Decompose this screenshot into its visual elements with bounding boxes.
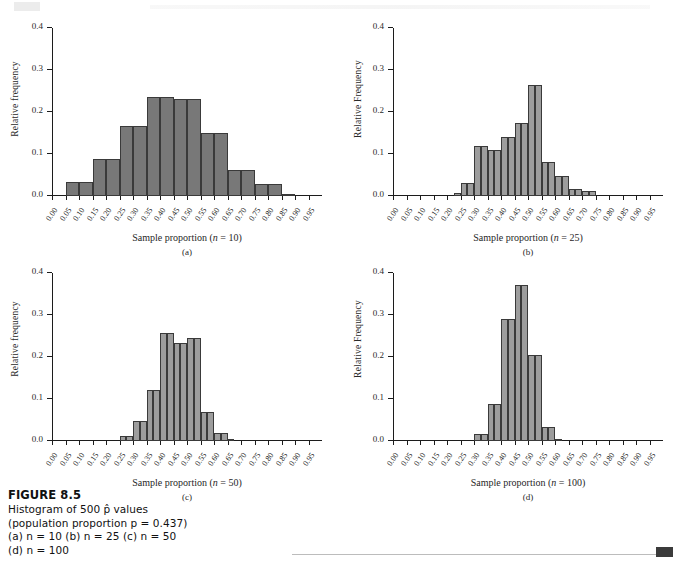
x-axis-tick-label: 0.70 (574, 451, 589, 468)
x-axis-tick: 0.00 (52, 441, 53, 445)
histogram-bar (589, 191, 596, 196)
x-axis-tick-label: 0.65 (560, 206, 575, 223)
x-axis-tick-label: 0.00 (44, 451, 59, 468)
histogram-bar (467, 183, 474, 196)
x-axis-tick-label: 0.00 (385, 206, 400, 223)
x-axis-tick: 0.25 (120, 441, 121, 445)
x-axis-tick: 0.10 (79, 441, 80, 445)
figure-caption-title: FIGURE 8.5 (8, 488, 308, 502)
y-axis-tick-label: 0.0 (32, 434, 43, 444)
histogram-bar (575, 189, 582, 196)
x-axis-tick: 0.95 (309, 441, 310, 445)
histogram-bar (582, 191, 589, 196)
x-axis-tick: 0.45 (174, 441, 175, 445)
y-axis-line (52, 28, 53, 196)
histogram-bar (515, 123, 522, 196)
histogram-bar (562, 176, 569, 196)
histogram-panel-c: Relative frequency 0.00.10.20.30.40.000.… (0, 259, 342, 509)
y-axis-tick-label: 0.4 (32, 21, 43, 31)
x-axis-tick: 0.20 (106, 441, 107, 445)
y-axis-tick: 0.2 (47, 356, 52, 357)
histogram-bar (66, 182, 80, 196)
histogram-bar (133, 421, 140, 441)
x-axis-tick: 0.15 (93, 196, 94, 200)
x-axis-tick-label: 0.60 (206, 206, 221, 223)
x-axis-tick: 0.75 (255, 441, 256, 445)
x-axis-label-prefix: Sample proportion ( (471, 477, 552, 488)
histogram-bar (569, 189, 576, 196)
histogram-bar (201, 133, 215, 196)
x-axis-tick-label: 0.10 (412, 451, 427, 468)
histogram-bar (461, 183, 468, 196)
x-axis-tick-label: 0.00 (385, 451, 400, 468)
histogram-bar (214, 133, 228, 196)
x-axis-tick-label: 0.20 (98, 451, 113, 468)
y-axis-tick-label: 0.4 (373, 266, 384, 276)
histogram-bar (207, 412, 214, 441)
histogram-bar (494, 150, 501, 196)
x-axis-tick-label: 0.55 (533, 206, 548, 223)
x-axis-tick-label: 0.30 (125, 451, 140, 468)
x-axis-tick: 0.40 (160, 196, 161, 200)
y-axis-tick: 0.4 (47, 27, 52, 28)
x-axis-tick-label: 0.55 (533, 451, 548, 468)
x-axis-tick: 0.50 (187, 441, 188, 445)
histogram-bar (542, 427, 549, 441)
histogram-bar (147, 97, 161, 196)
x-axis-tick-label: 0.45 (165, 451, 180, 468)
histogram-panel-d: Relative Frequency 0.00.10.20.30.40.000.… (341, 259, 683, 509)
x-axis-tick-label: 0.65 (219, 451, 234, 468)
figure-caption-line: Histogram of 500 p̂ values (8, 503, 308, 517)
histogram-bar (535, 85, 542, 196)
x-axis-tick: 0.95 (309, 196, 310, 200)
histogram-bar (187, 338, 194, 441)
x-axis-tick: 0.90 (295, 441, 296, 445)
y-axis-tick-label: 0.2 (373, 350, 384, 360)
x-axis-tick: 0.40 (501, 441, 502, 445)
x-axis-tick-label: 0.50 (179, 451, 194, 468)
x-axis-tick-label: 0.15 (84, 206, 99, 223)
x-axis-tick-label: 0.25 (452, 206, 467, 223)
y-axis-tick-label: 0.3 (32, 63, 43, 73)
x-axis-tick-label: 0.35 (479, 206, 494, 223)
figure-caption: FIGURE 8.5 Histogram of 500 p̂ values (p… (8, 488, 308, 557)
y-axis-line (393, 28, 394, 196)
x-axis-tick-label: 0.30 (466, 451, 481, 468)
footer-page-marker (656, 547, 673, 557)
x-axis-tick: 0.75 (255, 196, 256, 200)
x-axis-tick: 0.60 (214, 441, 215, 445)
histogram-bar (180, 343, 187, 441)
histogram-bar (174, 343, 181, 441)
y-axis-tick: 0.3 (47, 69, 52, 70)
scan-artifact-top-left (14, 2, 40, 11)
x-axis-tick: 0.10 (420, 441, 421, 445)
x-axis-tick-label: 0.35 (138, 206, 153, 223)
x-axis-tick-label: 0.10 (71, 451, 86, 468)
x-axis-label-prefix: Sample proportion ( (132, 232, 213, 243)
histogram-panel-a: Relative frequency 0.00.10.20.30.40.000.… (0, 14, 342, 264)
histogram-bar (481, 146, 488, 196)
x-axis-tick: 0.65 (569, 441, 570, 445)
x-axis-tick: 0.35 (488, 196, 489, 200)
x-axis-tick-label: 0.40 (152, 451, 167, 468)
histogram-bar (528, 85, 535, 196)
x-axis-tick-label: 0.55 (192, 206, 207, 223)
histogram-bar (147, 390, 154, 441)
x-axis-tick-label: 0.85 (614, 451, 629, 468)
histogram-bar (515, 285, 522, 441)
x-axis-tick-label: 0.65 (219, 206, 234, 223)
y-axis-tick-label: 0.1 (32, 392, 43, 402)
x-axis-tick: 0.15 (434, 196, 435, 200)
x-axis-tick: 0.70 (241, 196, 242, 200)
y-axis-tick: 0.2 (388, 356, 393, 357)
x-axis-tick: 0.50 (528, 196, 529, 200)
x-axis-tick: 0.60 (555, 441, 556, 445)
histogram-bar (488, 404, 495, 441)
x-axis-tick-label: 0.10 (71, 206, 86, 223)
x-axis-tick: 0.65 (228, 196, 229, 200)
figure-panels-grid: Relative frequency 0.00.10.20.30.40.000.… (0, 14, 685, 494)
x-axis-label: Sample proportion (n = 50) (52, 477, 322, 488)
plot-area-b: 0.00.10.20.30.40.000.050.100.150.200.250… (393, 28, 663, 196)
y-axis-tick: 0.3 (388, 69, 393, 70)
x-axis-tick-label: 0.75 (246, 206, 261, 223)
